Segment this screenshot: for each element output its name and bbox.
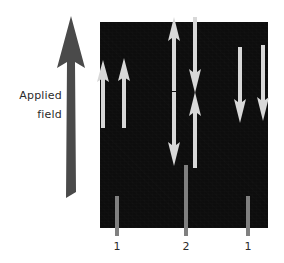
applied-field-label: Applied field [4, 86, 62, 124]
wall-marker-middle [184, 165, 188, 236]
wall-marker-middle-label: 2 [176, 241, 196, 253]
wall-marker-right-label: 1 [238, 241, 258, 253]
wall-marker-left-label: 1 [107, 241, 127, 253]
applied-field-label-line1: Applied [4, 86, 62, 105]
applied-field-arrow-icon [55, 16, 87, 198]
wall-marker-right [246, 196, 250, 236]
applied-field-label-line2: field [4, 105, 62, 124]
domain-wall-figure: Applied field [0, 0, 284, 263]
wall-marker-left [115, 196, 119, 236]
